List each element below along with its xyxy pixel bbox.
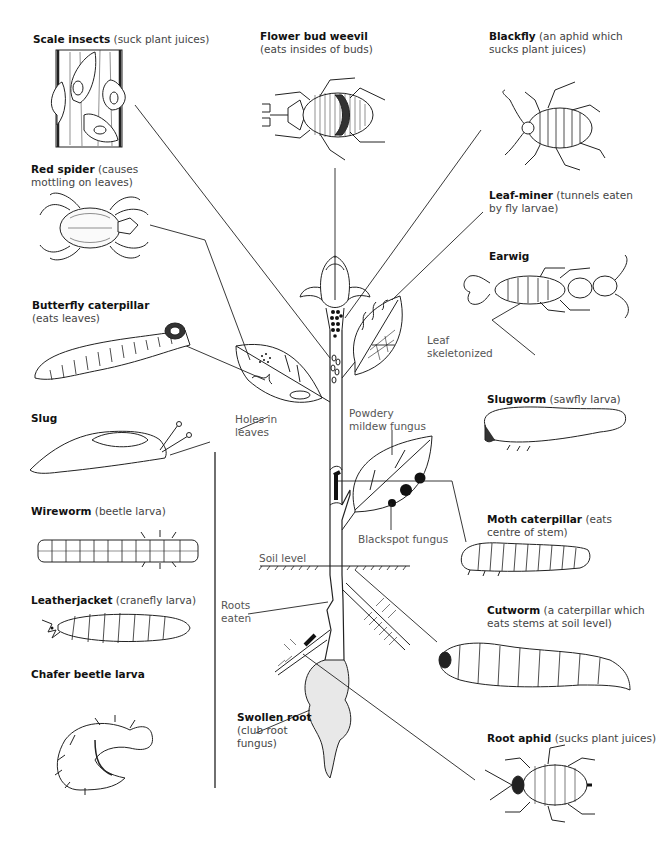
root-aphid-illustration — [485, 745, 595, 822]
wireworm-illustration — [38, 530, 198, 569]
blackfly-cluster — [330, 310, 343, 338]
flower-bud-weevil-illustration — [262, 78, 385, 160]
pest-name: Butterfly caterpillar — [32, 299, 149, 311]
pest-note: (suck plant juices) — [114, 33, 210, 45]
pest-name: Leatherjacket — [31, 594, 112, 606]
pest-name: Slugworm — [487, 393, 546, 405]
pest-note: (eats leaves) — [32, 312, 100, 324]
butterfly-caterpillar-illustration — [35, 323, 190, 380]
earwig-illustration — [464, 255, 628, 318]
chafer-beetle-larva-illustration — [55, 715, 153, 795]
label-butterfly-caterpillar: Butterfly caterpillar(eats leaves) — [32, 299, 149, 325]
pest-note: mottling on leaves) — [31, 176, 133, 188]
flower-bud — [300, 256, 370, 330]
plant-illustration — [236, 256, 432, 778]
label-root-aphid: Root aphid (sucks plant juices) — [487, 732, 656, 745]
pest-note: eats stems at soil level) — [487, 617, 612, 629]
pest-note: centre of stem) — [487, 526, 568, 538]
pest-note: (an aphid which — [539, 30, 623, 42]
label-line: Powdery — [349, 407, 394, 419]
pest-name: Red spider — [31, 163, 95, 175]
pest-note: by fly larvae) — [489, 202, 558, 214]
label-leatherjacket: Leatherjacket (cranefly larva) — [31, 594, 196, 607]
red-spider-illustration — [40, 193, 148, 260]
moth-caterpillar-illustration — [461, 543, 590, 576]
swollen-root-shape — [305, 660, 351, 778]
pest-note: (sawfly larva) — [550, 393, 621, 405]
pest-name: Slug — [31, 412, 57, 424]
pest-name: Earwig — [489, 250, 529, 262]
pest-name: Root aphid — [487, 732, 551, 744]
label-line: skeletonized — [427, 347, 493, 359]
pest-name: Swollen root — [237, 711, 312, 723]
label-cutworm: Cutworm (a caterpillar whicheats stems a… — [487, 604, 645, 630]
pest-name: Cutworm — [487, 604, 540, 616]
label-soil-level: Soil level — [259, 552, 306, 565]
pest-note: (causes — [98, 163, 138, 175]
label-leaf-miner: Leaf-miner (tunnels eatenby fly larvae) — [489, 189, 633, 215]
leatherjacket-illustration — [42, 613, 190, 643]
label-leaf-skeletonized: Leafskeletonized — [427, 334, 493, 360]
label-swollen-root: Swollen root(club rootfungus) — [237, 711, 312, 750]
pest-note: fungus) — [237, 737, 277, 749]
pest-note: sucks plant juices) — [489, 43, 586, 55]
label-line: Holes in — [235, 413, 277, 425]
label-line: leaves — [235, 426, 269, 438]
label-moth-caterpillar: Moth caterpillar (eatscentre of stem) — [487, 513, 612, 539]
pest-name: Wireworm — [31, 505, 92, 517]
label-flower-bud-weevil: Flower bud weevil(eats insides of buds) — [260, 30, 373, 56]
scale-insects-illustration — [51, 50, 125, 147]
pest-name: Flower bud weevil — [260, 30, 368, 42]
label-blackfly: Blackfly (an aphid whichsucks plant juic… — [489, 30, 623, 56]
pest-diagram-artwork — [0, 0, 662, 847]
pest-note: (eats insides of buds) — [260, 43, 373, 55]
label-powdery-mildew: Powderymildew fungus — [349, 407, 426, 433]
label-slugworm: Slugworm (sawfly larva) — [487, 393, 621, 406]
label-line: eaten — [221, 612, 251, 624]
label-slug: Slug — [31, 412, 57, 425]
label-line: Roots — [221, 599, 250, 611]
pest-note: (tunnels eaten — [556, 189, 633, 201]
scale-marks — [331, 355, 340, 383]
slugworm-illustration — [484, 407, 625, 451]
pest-note: (eats — [585, 513, 612, 525]
label-scale-insects: Scale insects (suck plant juices) — [33, 33, 209, 46]
label-chafer-beetle-larva: Chafer beetle larva — [31, 668, 145, 681]
label-roots-eaten: Rootseaten — [221, 599, 251, 625]
slug-illustration — [30, 422, 192, 474]
leaf-upper-right — [342, 296, 402, 378]
pest-name: Leaf-miner — [489, 189, 553, 201]
label-wireworm: Wireworm (beetle larva) — [31, 505, 166, 518]
label-holes-in-leaves: Holes inleaves — [235, 413, 277, 439]
soil-level-line — [259, 566, 410, 570]
blackfly-illustration — [503, 82, 605, 170]
pest-note: (beetle larva) — [95, 505, 166, 517]
pest-name: Blackfly — [489, 30, 536, 42]
leaf-middle-right — [342, 436, 432, 530]
pest-note: (sucks plant juices) — [555, 732, 656, 744]
pest-name: Scale insects — [33, 33, 110, 45]
pest-note: (a caterpillar which — [544, 604, 645, 616]
label-line: Leaf — [427, 334, 449, 346]
label-earwig: Earwig — [489, 250, 529, 263]
label-red-spider: Red spider (causesmottling on leaves) — [31, 163, 138, 189]
pest-note: (cranefly larva) — [116, 594, 196, 606]
label-blackspot-fungus: Blackspot fungus — [358, 533, 448, 546]
pest-note: (club root — [237, 724, 288, 736]
label-line: mildew fungus — [349, 420, 426, 432]
cutworm-illustration — [439, 643, 630, 690]
pest-name: Chafer beetle larva — [31, 668, 145, 680]
pest-name: Moth caterpillar — [487, 513, 582, 525]
